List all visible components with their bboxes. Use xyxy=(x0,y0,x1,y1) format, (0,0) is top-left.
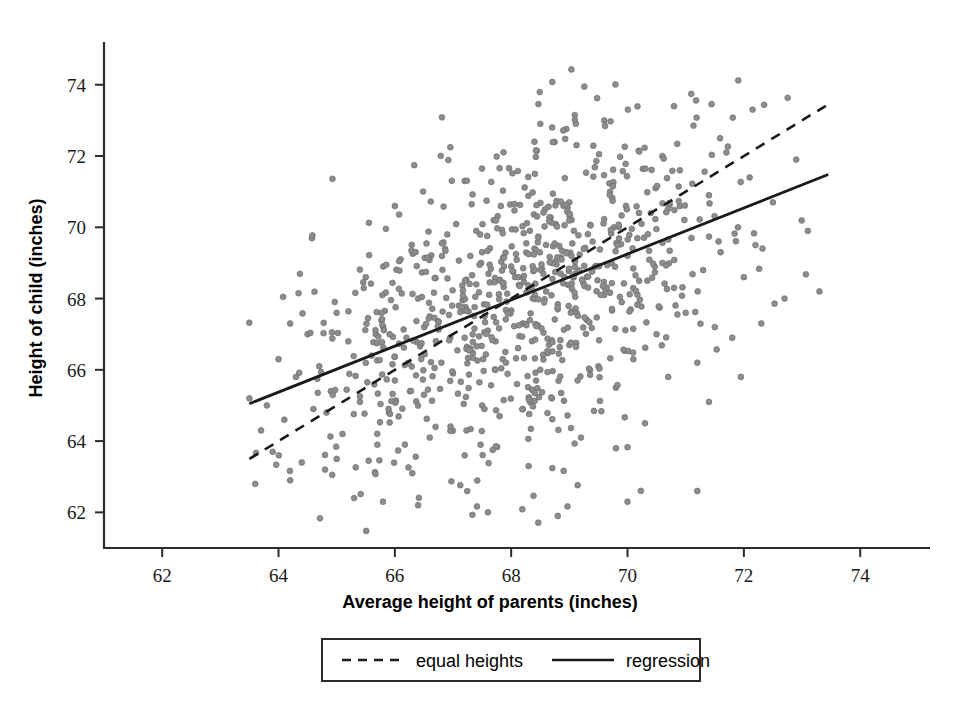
data-point xyxy=(573,344,579,350)
data-point xyxy=(663,209,669,215)
data-point xyxy=(664,175,670,181)
data-point xyxy=(615,382,621,388)
data-point xyxy=(396,414,402,420)
data-point xyxy=(547,259,553,265)
data-point xyxy=(753,242,759,248)
data-point xyxy=(519,406,525,412)
data-point xyxy=(760,246,766,252)
data-point xyxy=(601,172,607,178)
data-point xyxy=(583,331,589,337)
data-point xyxy=(550,191,556,197)
data-point xyxy=(432,365,438,371)
data-point xyxy=(384,377,390,383)
data-point xyxy=(547,254,553,260)
data-point xyxy=(702,169,708,175)
data-point xyxy=(639,221,645,227)
data-point xyxy=(617,294,623,300)
data-point xyxy=(531,493,537,499)
data-point xyxy=(487,262,493,268)
data-point xyxy=(466,372,472,378)
data-point xyxy=(770,199,776,205)
data-point xyxy=(485,248,491,254)
data-point xyxy=(619,213,625,219)
data-point xyxy=(586,319,592,325)
data-point xyxy=(440,267,446,273)
data-point xyxy=(498,365,504,371)
data-point xyxy=(594,95,600,101)
data-point xyxy=(469,201,475,207)
data-point xyxy=(490,447,496,453)
x-tick-label: 72 xyxy=(734,565,753,586)
data-point xyxy=(525,174,531,180)
data-point xyxy=(416,495,422,501)
data-point xyxy=(523,322,529,328)
data-point xyxy=(652,269,658,275)
data-point xyxy=(441,204,447,210)
data-point xyxy=(430,373,436,379)
data-point xyxy=(321,330,327,336)
data-point xyxy=(772,301,778,307)
data-point xyxy=(532,139,538,145)
data-point xyxy=(550,368,556,374)
data-point xyxy=(609,280,615,286)
data-point xyxy=(817,289,823,295)
data-point xyxy=(481,368,487,374)
data-point xyxy=(447,378,453,384)
data-point xyxy=(449,178,455,184)
data-point xyxy=(621,281,627,287)
data-point xyxy=(676,184,682,190)
data-point xyxy=(488,382,494,388)
data-point xyxy=(637,297,643,303)
data-point xyxy=(500,280,506,286)
data-point xyxy=(575,313,581,319)
data-point xyxy=(747,175,753,181)
data-point xyxy=(402,442,408,448)
data-point xyxy=(427,435,433,441)
data-point xyxy=(610,183,616,189)
data-point xyxy=(597,374,603,380)
data-point xyxy=(541,357,547,363)
data-point xyxy=(317,515,323,521)
data-point xyxy=(682,203,688,209)
data-point xyxy=(281,417,287,423)
data-point xyxy=(406,465,412,471)
data-point xyxy=(546,218,552,224)
data-point xyxy=(642,145,648,151)
data-point xyxy=(732,231,738,237)
data-point xyxy=(608,227,614,233)
data-point xyxy=(556,351,562,357)
data-point xyxy=(455,391,461,397)
data-point xyxy=(537,249,543,255)
data-point xyxy=(582,315,588,321)
data-point xyxy=(439,253,445,259)
data-point xyxy=(733,238,739,244)
data-point xyxy=(491,314,497,320)
data-point xyxy=(649,167,655,173)
data-point xyxy=(559,248,565,254)
data-point xyxy=(312,289,318,295)
data-point xyxy=(477,232,483,238)
data-point xyxy=(520,265,526,271)
data-point xyxy=(627,291,633,297)
data-point xyxy=(526,463,532,469)
data-point xyxy=(717,135,723,141)
data-point xyxy=(401,345,407,351)
data-point xyxy=(474,504,480,510)
data-point xyxy=(330,176,336,182)
data-point xyxy=(396,212,402,218)
data-point xyxy=(321,320,327,326)
data-point xyxy=(456,258,462,264)
data-point xyxy=(408,388,414,394)
data-point xyxy=(457,482,463,488)
data-point xyxy=(419,294,425,300)
x-tick-label: 62 xyxy=(153,565,172,586)
data-point xyxy=(638,488,644,494)
data-point xyxy=(601,216,607,222)
data-point xyxy=(482,319,488,325)
data-point xyxy=(374,431,380,437)
data-point xyxy=(555,305,561,311)
data-point xyxy=(311,406,317,412)
data-point xyxy=(597,366,603,372)
data-point xyxy=(587,372,593,378)
data-point xyxy=(690,271,696,277)
